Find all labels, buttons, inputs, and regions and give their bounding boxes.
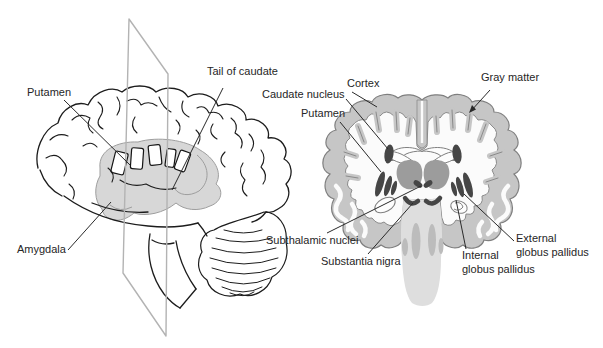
diagram-artwork	[0, 0, 603, 348]
label-putamen-right: Putamen	[301, 107, 345, 121]
label-amygdala: Amygdala	[17, 243, 66, 257]
label-cortex: Cortex	[347, 77, 379, 91]
brain-diagram-figure: Putamen Tail of caudate Amygdala Cortex …	[0, 0, 603, 348]
label-caudate-nucleus: Caudate nucleus	[262, 88, 345, 102]
label-subthalamic-nuclei: Subthalamic nuclei	[266, 234, 358, 248]
leader-amygdala	[68, 202, 111, 250]
interhemispheric-fissure	[417, 100, 427, 148]
label-putamen-left: Putamen	[27, 86, 71, 100]
label-gray-matter: Gray matter	[481, 71, 539, 85]
label-tail-of-caudate: Tail of caudate	[207, 65, 278, 79]
label-substantia-nigra: Substantia nigra	[321, 255, 401, 269]
leader-putamen-left	[64, 100, 130, 165]
label-external-globus-pallidus: External globus pallidus	[516, 232, 589, 260]
